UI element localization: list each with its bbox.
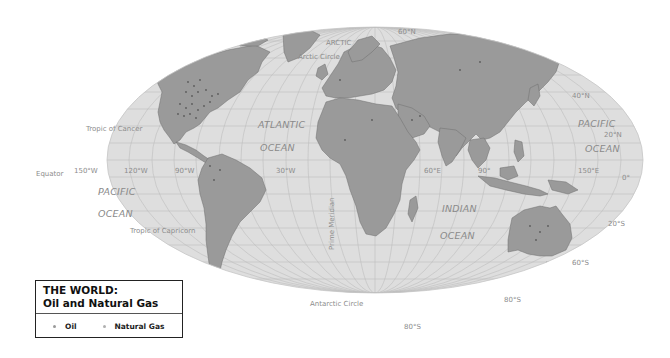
legend-title-line1: THE WORLD:	[43, 284, 175, 297]
label-90w: 90°W	[175, 167, 194, 175]
legend-item-oil-label: Oil	[65, 322, 77, 331]
label-atlantic-ocean: OCEAN	[260, 142, 295, 153]
alaska	[115, 66, 165, 78]
label-pacific-east-ocean: OCEAN	[585, 143, 620, 154]
legend-divider	[36, 313, 182, 314]
label-90: 90°	[478, 167, 490, 175]
label-30w: 30°W	[276, 167, 295, 175]
label-atlantic: ATLANTIC	[257, 119, 306, 130]
label-120w: 120°W	[124, 167, 148, 175]
label-prime-meridian: Prime Meridian	[328, 197, 336, 250]
oil-dot-icon	[53, 325, 56, 328]
label-80s-east: 80°S	[504, 296, 521, 304]
label-arctic-circle: Arctic Circle	[298, 53, 340, 61]
label-0: 0°	[622, 174, 630, 182]
legend-title-line2: Oil and Natural Gas	[43, 297, 175, 310]
label-60s: 60°S	[572, 259, 589, 267]
tasmania	[546, 262, 552, 268]
legend-title: THE WORLD: Oil and Natural Gas	[36, 281, 182, 310]
label-arctic: ARCTIC	[326, 39, 352, 47]
label-20s: 20°S	[608, 220, 625, 228]
label-equator: Equator	[36, 170, 64, 178]
label-pacific-east: PACIFIC	[578, 118, 616, 129]
label-indian: INDIAN	[442, 203, 477, 214]
label-60e: 60°E	[424, 167, 441, 175]
label-pacific-west: PACIFIC	[98, 186, 136, 197]
label-indian-ocean: OCEAN	[440, 230, 475, 241]
map-legend: THE WORLD: Oil and Natural Gas Oil Natur…	[35, 280, 183, 338]
label-20n: 20°N	[604, 131, 622, 139]
legend-item-oil: Oil	[53, 322, 77, 331]
label-pacific-west-ocean: OCEAN	[98, 208, 133, 219]
natural-gas-dot-icon	[103, 325, 106, 328]
antarctic-peninsula	[270, 300, 284, 318]
antarctica	[232, 306, 476, 338]
label-60n: 60°N	[398, 28, 416, 36]
legend-item-natural-gas-label: Natural Gas	[115, 322, 165, 331]
legend-item-natural-gas: Natural Gas	[103, 322, 165, 331]
label-150w: 150°W	[74, 167, 98, 175]
legend-items: Oil Natural Gas	[36, 317, 182, 335]
label-150e: 150°E	[578, 167, 599, 175]
label-antarctic-circle: Antarctic Circle	[310, 300, 363, 308]
label-tropic-capricorn: Tropic of Capricorn	[129, 227, 195, 235]
label-tropic-cancer: Tropic of Cancer	[85, 125, 142, 133]
label-80s-south: 80°S	[404, 323, 421, 331]
label-40n: 40°N	[572, 92, 590, 100]
